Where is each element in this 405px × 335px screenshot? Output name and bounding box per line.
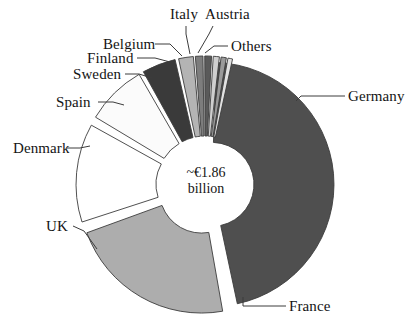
slice-label-denmark: Denmark: [13, 140, 70, 156]
leader-line-belgium: [155, 44, 182, 56]
center-annotation-line1: ~€1.86: [175, 165, 237, 181]
slice-label-spain: Spain: [56, 94, 91, 110]
leader-line-others: [205, 46, 228, 53]
slice-label-sweden: Sweden: [73, 66, 121, 82]
leader-line-finland: [137, 58, 170, 62]
leader-line-italy: [186, 26, 190, 54]
slice-label-others: Others: [231, 38, 272, 54]
center-annotation-line2: billion: [175, 181, 237, 197]
slice-label-austria: Austria: [205, 6, 250, 22]
leader-line-germany: [296, 96, 345, 101]
center-annotation: ~€1.86 billion: [175, 165, 237, 197]
pie-slice-france[interactable]: [87, 205, 223, 313]
slice-label-uk: UK: [46, 218, 68, 234]
slice-label-italy: Italy: [170, 6, 198, 22]
slice-label-france: France: [289, 298, 330, 314]
slice-label-germany: Germany: [348, 88, 405, 104]
slice-label-finland: Finland: [87, 50, 134, 66]
